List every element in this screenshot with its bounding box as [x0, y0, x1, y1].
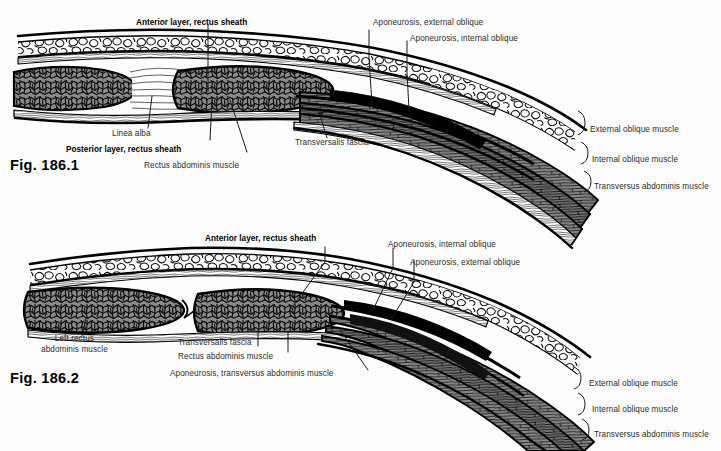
label-internal-oblique-muscle-2: Internal oblique muscle [592, 405, 678, 415]
label-transversus-abdominis-muscle-2: Transversus abdominis muscle [594, 430, 709, 440]
figure-caption-186-2: Fig. 186.2 [10, 370, 79, 386]
label-posterior-layer-rectus-sheath-1: Posterior layer, rectus sheath [66, 145, 181, 155]
lateral-abdominal-wall-muscles-2 [322, 300, 594, 451]
figure-caption-186-1: Fig. 186.1 [10, 157, 79, 173]
layer-brace-markers [578, 111, 591, 192]
label-rectus-abdominis-muscle-2: Rectus abdominis muscle [178, 352, 273, 362]
rectus-abdominis-right-belly-2 [194, 289, 344, 336]
label-anterior-layer-rectus-sheath-2: Anterior layer, rectus sheath [205, 234, 316, 244]
label-internal-oblique-muscle-1: Internal oblique muscle [592, 155, 678, 165]
label-linea-alba-1: Linea alba [112, 129, 151, 139]
label-aponeurosis-external-oblique-1: Aponeurosis, external oblique [373, 18, 483, 28]
label-external-oblique-muscle-2: External oblique muscle [589, 379, 678, 389]
label-left-rectus-abdominis-muscle-2: Left rectus abdominis muscle [41, 334, 108, 355]
label-anterior-layer-rectus-sheath-1: Anterior layer, rectus sheath [136, 18, 247, 28]
label-external-oblique-muscle-1: External oblique muscle [590, 125, 679, 135]
label-aponeurosis-external-oblique-2: Aponeurosis, external oblique [410, 258, 520, 268]
fig-186-2-drawing [24, 247, 600, 451]
label-rectus-abdominis-muscle-1: Rectus abdominis muscle [144, 161, 239, 171]
label-aponeurosis-transversus-abdominis-muscle-2: Aponeurosis, transversus abdominis muscl… [170, 369, 333, 379]
fig-186-1-drawing [14, 24, 600, 248]
label-aponeurosis-internal-oblique-2: Aponeurosis, internal oblique [388, 240, 496, 250]
anatomy-figure-page: Anterior layer, rectus sheath Aponeurosi… [0, 0, 721, 451]
rectus-abdominis-left-belly [14, 67, 136, 110]
label-transversus-abdominis-muscle-1: Transversus abdominis muscle [594, 182, 709, 192]
label-transversalis-fascia-1: Transversalis fascia [295, 138, 369, 148]
label-transversalis-fascia-2: Transversalis fascia [178, 338, 252, 348]
label-aponeurosis-internal-oblique-1: Aponeurosis, internal oblique [410, 34, 518, 44]
rectus-abdominis-left-belly-2 [24, 288, 184, 333]
